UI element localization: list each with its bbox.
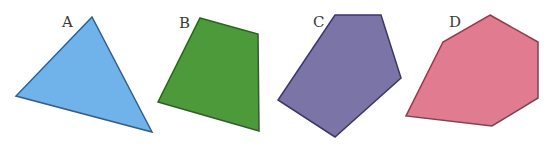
shape-d: D	[406, 13, 538, 126]
label-d: D	[449, 13, 461, 31]
shapes-svg: A B C D	[0, 0, 547, 146]
label-b: B	[179, 14, 190, 32]
shape-b: B	[158, 14, 259, 131]
triangle-a	[16, 17, 152, 132]
label-c: C	[313, 13, 324, 31]
quadrilateral-b	[158, 18, 259, 131]
shape-c: C	[278, 13, 401, 137]
pentagon-c	[278, 15, 401, 137]
shapes-diagram: A B C D	[0, 0, 547, 146]
label-a: A	[61, 13, 73, 31]
shape-a: A	[16, 13, 152, 132]
hexagon-d	[406, 15, 538, 126]
